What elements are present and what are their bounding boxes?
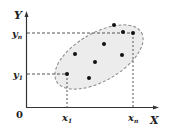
data-point <box>131 31 135 35</box>
data-point <box>102 42 106 46</box>
x-axis-arrow-icon <box>153 106 159 110</box>
y1-label: y1 <box>12 69 23 81</box>
data-point <box>87 76 91 80</box>
xn-label: xn <box>127 112 138 124</box>
y-axis-arrow-icon <box>25 11 29 17</box>
data-point <box>65 72 69 76</box>
data-point <box>120 53 124 57</box>
yn-label: yn <box>11 28 22 40</box>
scatter-ellipse-diagram: Y X 0 yn y1 x1 xn <box>0 0 171 129</box>
origin-label: 0 <box>16 109 23 120</box>
x-axis-label: X <box>149 114 159 127</box>
y-axis-label: Y <box>14 9 23 22</box>
x1-label: x1 <box>61 112 72 124</box>
data-point <box>93 60 97 64</box>
data-point <box>121 30 125 34</box>
data-point <box>112 23 116 27</box>
data-point <box>73 52 77 56</box>
confidence-ellipse <box>45 12 154 103</box>
